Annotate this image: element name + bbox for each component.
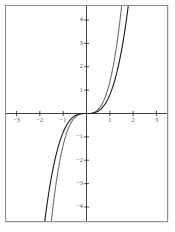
- y-tick-label: −4: [76, 202, 83, 209]
- x-tick-label: −1: [60, 116, 67, 123]
- y-tick-label: 4: [80, 15, 83, 22]
- y-tick-label: −3: [76, 179, 83, 186]
- x-tick-label: −3: [13, 116, 20, 123]
- x-tick-label: 2: [132, 116, 135, 123]
- x-tick-group: −3−2−1123: [13, 111, 158, 123]
- x-tick-label: 1: [108, 116, 111, 123]
- y-tick-label: 3: [80, 39, 83, 46]
- y-tick-label: −2: [76, 156, 83, 163]
- y-tick-label: 1: [80, 86, 83, 93]
- x-tick-label: 3: [155, 116, 158, 123]
- y-tick-label: 2: [80, 62, 83, 69]
- x-tick-label: −2: [37, 116, 44, 123]
- plot-area: −3−2−1123 4321−1−2−3−4: [6, 6, 167, 221]
- y-tick-label: −1: [76, 132, 83, 139]
- y-tick-group: 4321−1−2−3−4: [76, 15, 89, 209]
- cartesian-plot: −3−2−1123 4321−1−2−3−4: [6, 6, 167, 221]
- figure-card: −3−2−1123 4321−1−2−3−4: [5, 5, 168, 222]
